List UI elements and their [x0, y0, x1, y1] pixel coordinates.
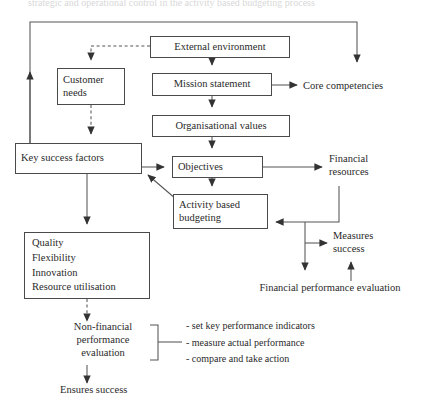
node-external-environment[interactable]: External environment	[150, 36, 290, 58]
performance-measure-item: Flexibility	[32, 251, 76, 266]
bullet-item: - compare and take action	[186, 351, 315, 368]
label-core-competencies: Core competencies	[303, 79, 383, 92]
node-customer-needs[interactable]: Customer needs	[57, 68, 125, 105]
label-financial-resources: Financial resources	[329, 152, 369, 178]
node-organisational-values[interactable]: Organisational values	[152, 115, 290, 137]
performance-measure-item: Resource utilisation	[32, 280, 116, 295]
action-bullet-list: - set key performance indicators - measu…	[186, 318, 315, 368]
label-financial-performance-evaluation: Financial performance evaluation	[237, 281, 423, 294]
node-key-success-factors[interactable]: Key success factors	[15, 143, 142, 174]
node-customer-needs-label: Customer needs	[63, 74, 104, 99]
node-objectives[interactable]: Objectives	[172, 156, 263, 178]
bullet-item: - measure actual performance	[186, 335, 315, 352]
performance-measure-item: Quality	[32, 236, 64, 251]
node-activity-based-budgeting[interactable]: Activity based budgeting	[173, 194, 268, 229]
node-activity-based-budgeting-label: Activity based budgeting	[179, 199, 240, 224]
node-performance-measures[interactable]: Quality Flexibility Innovation Resource …	[24, 232, 150, 299]
bullet-item: - set key performance indicators	[186, 318, 315, 335]
performance-measure-item: Innovation	[32, 266, 78, 281]
label-ensures-success: Ensures success	[60, 383, 127, 396]
label-non-financial-performance-evaluation: Non-financial performance evaluation	[57, 320, 149, 359]
flow-diagram: strategic and operational control in the…	[0, 0, 424, 412]
label-measures-success: Measures success	[333, 229, 373, 255]
node-mission-statement[interactable]: Mission statement	[152, 73, 272, 96]
